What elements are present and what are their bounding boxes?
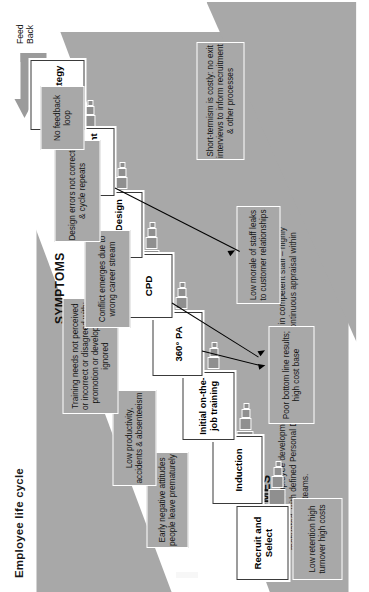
process-box-induction[interactable]: Induction (212, 436, 262, 504)
symptom-box-label: Design errors not corrected & cycle repe… (67, 141, 87, 241)
feedback-arrow-stem-horizontal (20, 53, 29, 100)
symptom-box-label: Low morale of staff leaks to customer re… (248, 207, 268, 303)
symptom-box-no-feedback-loop: No feedback loop (40, 86, 84, 150)
symptom-box-conflict-emerges: Conflict emerges due to wrong career str… (84, 230, 130, 328)
symptom-box-poor-bottom-line: Poor bottom line results; high cost base (268, 326, 314, 424)
process-box-label: Recruit and Select (251, 507, 273, 579)
feedback-label-line1: Feed (14, 24, 24, 44)
symptom-box-label: Poor bottom line results; high cost base (281, 327, 301, 423)
symptom-box-label: Low retention high turnover high costs (307, 499, 327, 579)
symptom-box-label: Early negative attitudes people leave pr… (157, 453, 177, 547)
symptom-box-label: Low productivity, accidents & absenteeis… (124, 391, 144, 485)
feedback-label-line2: Back (24, 24, 34, 44)
symptom-box-low-productivity: Low productivity, accidents & absenteeis… (112, 390, 156, 486)
process-box-label: Induction (232, 448, 243, 491)
symptom-box-label: No feedback loop (52, 87, 72, 149)
symptom-box-label: Short-termism is costly: no exit intervi… (205, 43, 236, 159)
symptom-box-short-termism-is-costly: Short-termism is costly: no exit intervi… (196, 42, 244, 160)
process-box-label: 360° PA (172, 326, 183, 361)
symptom-box-design-errors-not-corrected: Design errors not corrected & cycle repe… (54, 140, 100, 242)
process-box-label: Initial on-the-job training (197, 373, 219, 439)
symptom-box-low-morale-of-staff: Low morale of staff leaks to customer re… (236, 206, 280, 304)
diagram-canvas: Employee life cycle SYMPTOMS OUTCOMES If… (0, 0, 369, 592)
scan-page-mark (176, 572, 198, 578)
symptom-box-low-retention: Low retention high turnover high costs (292, 498, 342, 580)
process-box-initial-on-the-job-training[interactable]: Initial on-the-job training (182, 372, 234, 440)
feedback-label: Feed Back (14, 24, 34, 44)
process-box-360-pa[interactable]: 360° PA (152, 312, 202, 376)
page-title: Employee life cycle (12, 468, 24, 578)
process-box-recruit-and-select[interactable]: Recruit and Select (236, 506, 288, 580)
symptom-box-label: Conflict emerges due to wrong career str… (97, 231, 117, 327)
process-box-label: CPD (142, 276, 153, 297)
